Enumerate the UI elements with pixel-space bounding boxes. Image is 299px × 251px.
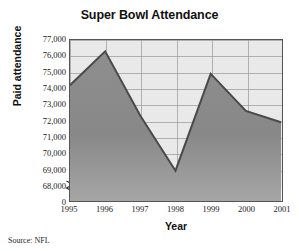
y-axis-tick-label: 70,000 <box>16 148 66 158</box>
y-axis-tick-label: 71,000 <box>16 132 66 142</box>
y-axis-tick-label: 76,000 <box>16 50 66 60</box>
x-axis-tick-label: 1997 <box>120 204 160 214</box>
x-axis-tick-label: 1996 <box>85 204 125 214</box>
x-axis-tick-label: 1999 <box>191 204 231 214</box>
y-axis-tick-label: 75,000 <box>16 67 66 77</box>
y-axis-tick-label: 74,000 <box>16 83 66 93</box>
y-axis-tick-label: 72,000 <box>16 116 66 126</box>
x-axis-tick-label: 2001 <box>262 204 299 214</box>
x-axis-tick-label: 2000 <box>227 204 267 214</box>
x-axis-tick-label: 1995 <box>49 204 89 214</box>
x-axis-title: Year <box>69 220 283 232</box>
series-area-fill <box>70 51 281 201</box>
y-axis-tick-label: 77,000 <box>16 34 66 44</box>
chart-title: Super Bowl Attendance <box>0 8 299 22</box>
y-axis-tick-labels: 77,00076,00075,00074,00073,00072,00071,0… <box>16 33 66 209</box>
y-axis-tick-label: 68,000 <box>16 181 66 191</box>
x-axis-tick-label: 1998 <box>156 204 196 214</box>
attendance-area-series <box>70 40 282 201</box>
chart-figure: Super Bowl Attendance Paid attendance 77… <box>0 0 299 251</box>
source-note: Source: NFL <box>8 236 50 245</box>
y-axis-tick-label: 73,000 <box>16 99 66 109</box>
y-axis-tick-label: 69,000 <box>16 165 66 175</box>
plot-area <box>69 39 283 202</box>
x-axis-tick-labels: 1995199619971998199920002001 <box>0 204 299 218</box>
